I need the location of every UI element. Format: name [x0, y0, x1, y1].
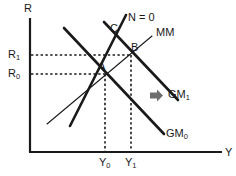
tick-label-y0-sub: 0 [106, 161, 110, 170]
curve-label-gm1: GM1 [168, 89, 190, 100]
curve-label-gm0-text: GM [166, 127, 184, 139]
curve-label-mm: MM [156, 27, 174, 38]
curve-label-gm1-sub: 1 [186, 93, 190, 102]
point-label-b: B [131, 42, 138, 53]
curve-label-c: C [110, 23, 118, 34]
tick-label-r1-text: R [8, 48, 16, 60]
tick-label-y1: Y1 [125, 157, 137, 168]
point-label-a: A [98, 61, 105, 72]
x-axis-label: Y [225, 147, 232, 158]
rightward-shift-arrow [150, 90, 163, 102]
tick-label-r0: R0 [8, 68, 20, 79]
tick-label-r1-sub: 1 [16, 53, 20, 62]
tick-label-y1-sub: 1 [132, 161, 136, 170]
diagram-canvas: R Y R1 R0 Y0 Y1 A B C N = 0 MM GM1 GM0 [0, 0, 236, 176]
tick-label-r0-sub: 0 [16, 72, 20, 81]
curve-gm0 [64, 28, 164, 134]
curve-label-gm1-text: GM [168, 88, 186, 100]
curve-label-gm0: GM0 [166, 128, 188, 139]
tick-label-y0: Y0 [99, 157, 111, 168]
tick-label-r1: R1 [8, 49, 20, 60]
y-axis-label: R [24, 3, 32, 14]
tick-label-r0-text: R [8, 67, 16, 79]
curve-label-n-zero: N = 0 [128, 12, 155, 23]
diagram-graphics [0, 0, 236, 176]
curve-label-gm0-sub: 0 [184, 132, 188, 141]
